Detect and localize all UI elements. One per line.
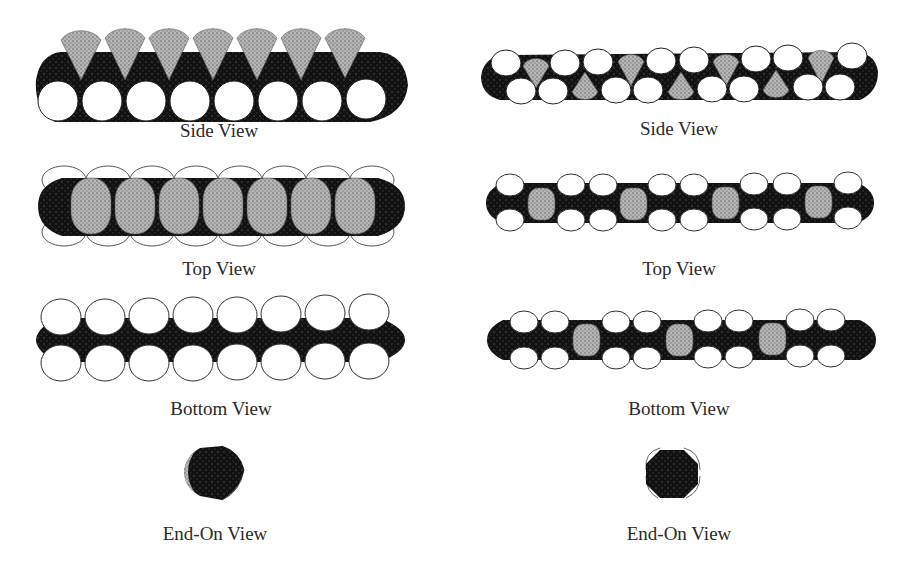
right-side-view-label: Side View: [640, 118, 718, 140]
right-bottom-view-label: Bottom View: [628, 398, 729, 420]
right-end-on-view-label: End-On View: [627, 523, 732, 545]
left-bottom-view: [36, 294, 405, 381]
right-end-on-view: [646, 448, 700, 498]
molecular-views-figure: [0, 0, 913, 568]
right-top-view-label: Top View: [642, 258, 716, 280]
left-side-view-label: Side View: [180, 120, 258, 142]
right-side-view: [481, 43, 878, 104]
right-top-view: [486, 172, 874, 231]
left-end-on-view-label: End-On View: [163, 523, 268, 545]
left-end-on-view: [184, 446, 244, 500]
left-top-view-label: Top View: [182, 258, 256, 280]
left-side-view: [36, 29, 408, 122]
left-bottom-view-label: Bottom View: [170, 398, 271, 420]
left-top-view: [38, 166, 405, 246]
right-bottom-view: [487, 309, 876, 369]
